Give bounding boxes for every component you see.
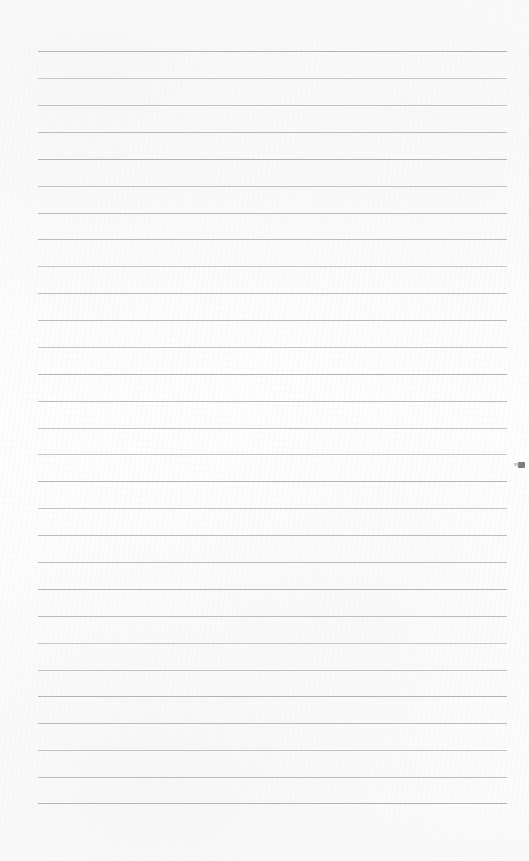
rule-line — [38, 213, 507, 214]
rule-line — [38, 132, 507, 133]
rule-line — [38, 293, 507, 294]
rule-line — [38, 777, 507, 778]
rule-line — [38, 320, 507, 321]
rule-line — [38, 105, 507, 106]
rule-line — [38, 616, 507, 617]
rule-line — [38, 51, 507, 52]
right-edge-speck-artifact — [518, 462, 525, 468]
rule-line — [38, 401, 507, 402]
rule-line — [38, 723, 507, 724]
rule-line — [38, 159, 507, 160]
rule-line — [38, 508, 507, 509]
rule-line — [38, 428, 507, 429]
rule-line — [38, 78, 507, 79]
rule-line — [38, 803, 507, 804]
rule-line — [38, 266, 507, 267]
rule-line — [38, 239, 507, 240]
rule-line — [38, 696, 507, 697]
rule-line — [38, 670, 507, 671]
notebook-page — [0, 0, 529, 861]
rule-line — [38, 454, 507, 455]
rule-line — [38, 186, 507, 187]
rule-line — [38, 589, 507, 590]
rule-line — [38, 374, 507, 375]
rule-line — [38, 562, 507, 563]
rule-line — [38, 535, 507, 536]
rule-line — [38, 750, 507, 751]
rule-line — [38, 347, 507, 348]
rule-line — [38, 643, 507, 644]
rule-line — [38, 481, 507, 482]
ruled-lines-group — [0, 0, 529, 861]
